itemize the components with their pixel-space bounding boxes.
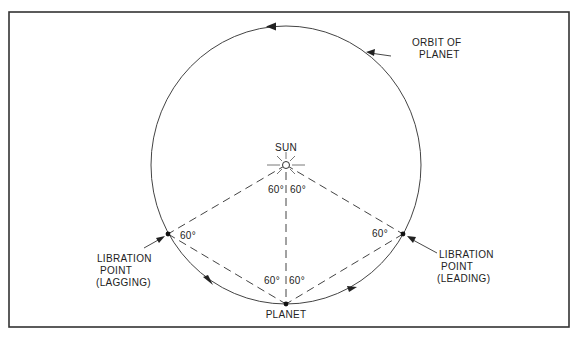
angle-planet-left: 60° bbox=[264, 275, 280, 286]
angle-planet-right: 60° bbox=[289, 275, 305, 286]
orbit-arrow-lower-right-icon bbox=[347, 286, 357, 292]
lagging-point-dot bbox=[166, 232, 171, 237]
leading-label-line2: POINT bbox=[441, 261, 473, 272]
lagging-label-line1: LIBRATION bbox=[97, 253, 152, 264]
lagging-label-line2: POINT bbox=[100, 265, 132, 276]
orbit-label-line2: PLANET bbox=[419, 49, 460, 60]
leading-leader-arrow-icon bbox=[407, 236, 416, 243]
sun-icon bbox=[267, 152, 305, 174]
lagging-label-line3: (LAGGING) bbox=[96, 277, 151, 288]
angle-lagging: 60° bbox=[180, 230, 196, 241]
angle-sun-left: 60° bbox=[268, 184, 284, 195]
leading-label-line3: (LEADING) bbox=[437, 273, 490, 284]
orbit-leader-arrow-icon bbox=[366, 49, 375, 56]
leading-label-line1: LIBRATION bbox=[439, 249, 494, 260]
leading-leader-line bbox=[413, 240, 437, 253]
orbit-arrow-top-icon bbox=[266, 23, 276, 31]
orbit-arrow-lower-left-icon bbox=[203, 275, 213, 285]
planet-dot bbox=[284, 302, 289, 307]
orbit-label-line1: ORBIT OF bbox=[412, 37, 461, 48]
sun-label: SUN bbox=[275, 142, 297, 153]
geometry-lines bbox=[168, 165, 403, 304]
angle-sun-right: 60° bbox=[290, 184, 306, 195]
leading-point-dot bbox=[401, 232, 406, 237]
libration-diagram: SUN ORBIT OF PLANET LIBRATION POINT (LAG… bbox=[0, 0, 577, 338]
planet-label: PLANET bbox=[266, 309, 307, 320]
angle-leading: 60° bbox=[372, 228, 388, 239]
lagging-leader-arrow-icon bbox=[156, 236, 165, 243]
